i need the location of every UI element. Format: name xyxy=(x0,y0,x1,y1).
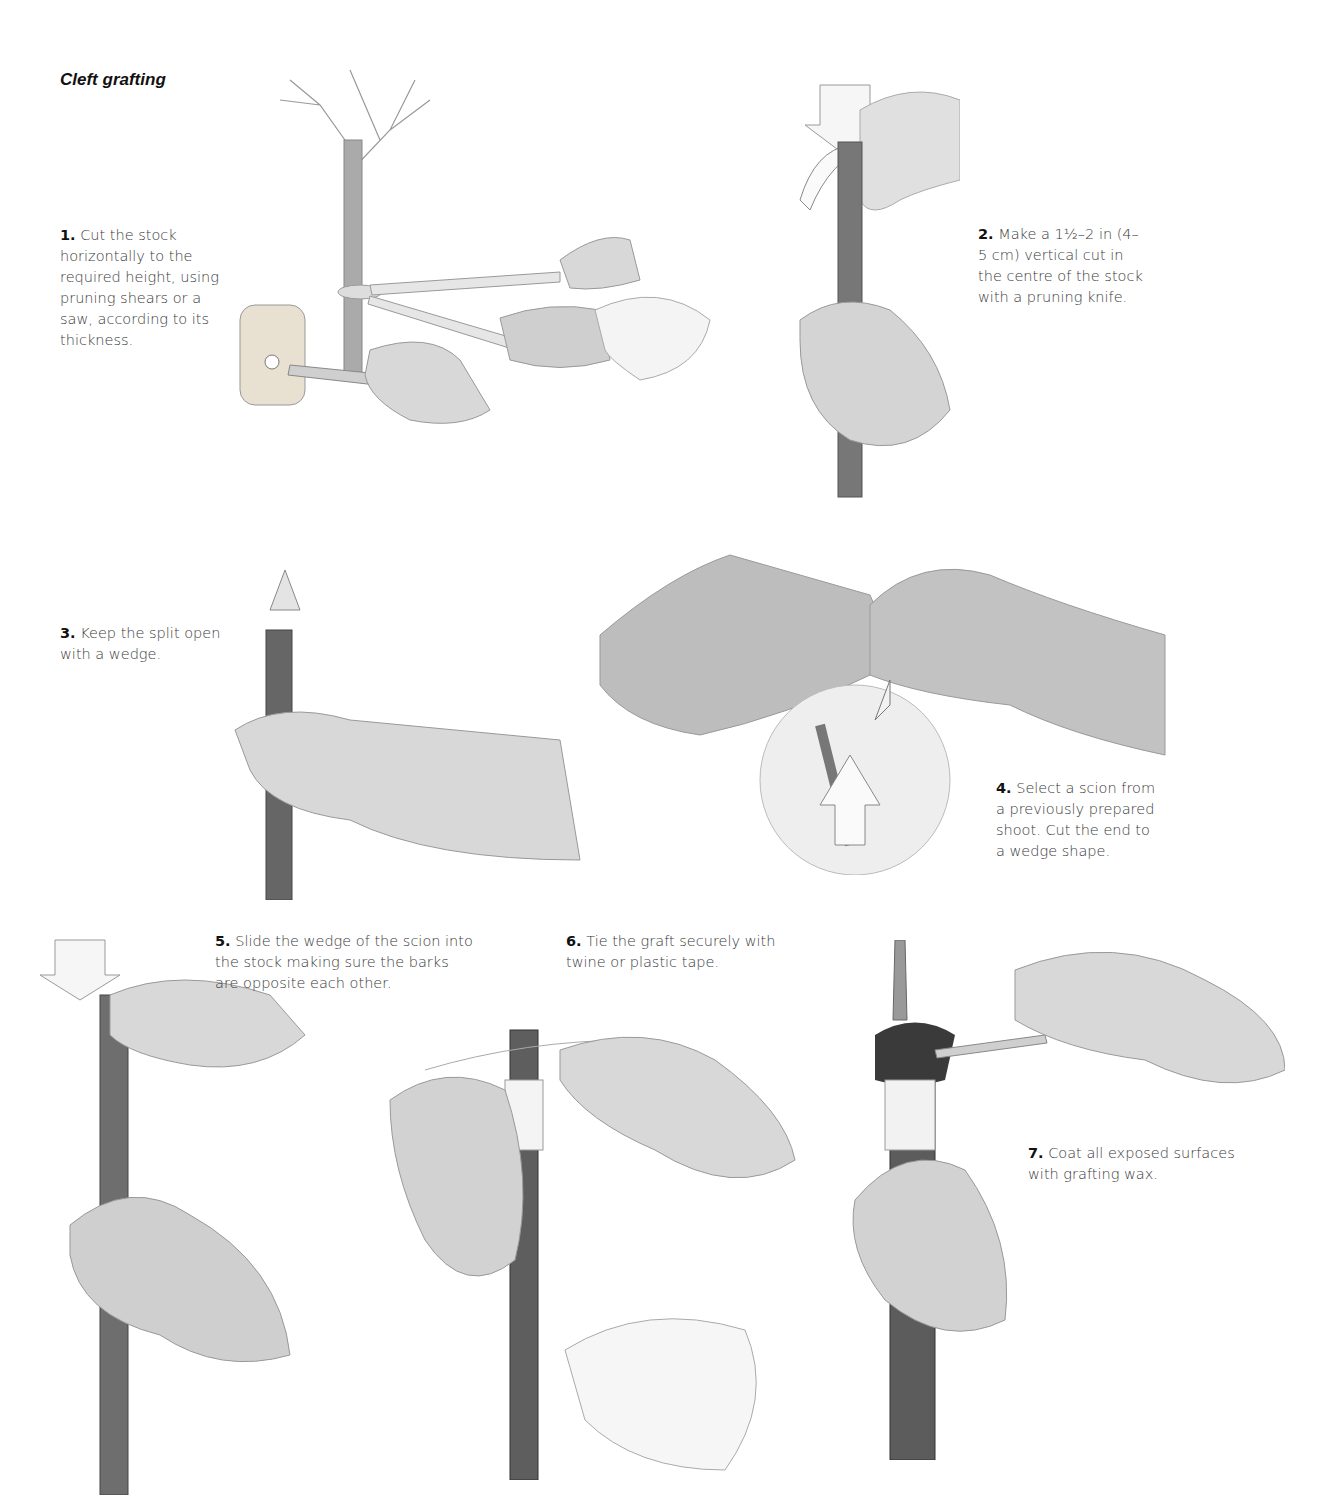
step-3-caption: 3. Keep the split open with a wedge. xyxy=(60,623,230,665)
step-text: Keep the split open with a wedge. xyxy=(60,625,220,662)
step-number: 3. xyxy=(60,625,76,641)
page-title: Cleft grafting xyxy=(60,70,166,90)
illustration-insert-scion xyxy=(40,935,310,1495)
step-2-caption: 2. Make a 1½–2 in (4–5 cm) vertical cut … xyxy=(978,224,1148,308)
step-text: Select a scion from a previously prepare… xyxy=(996,780,1155,859)
step-text: Coat all exposed surfaces with grafting … xyxy=(1028,1145,1235,1182)
step-1-caption: 1. Cut the stock horizontally to the req… xyxy=(60,225,230,351)
step-5-caption: 5. Slide the wedge of the scion into the… xyxy=(215,931,475,994)
step-text: Slide the wedge of the scion into the st… xyxy=(215,933,473,991)
illustration-tie-graft xyxy=(385,1000,815,1480)
step-text: Tie the graft securely with twine or pla… xyxy=(566,933,775,970)
illustration-knife-cut xyxy=(780,80,960,500)
illustration-mallet-wedge xyxy=(230,300,590,900)
step-text: Cut the stock horizontally to the requir… xyxy=(60,227,219,348)
step-text: Make a 1½–2 in (4–5 cm) vertical cut in … xyxy=(978,226,1143,305)
step-6-caption: 6. Tie the graft securely with twine or … xyxy=(566,931,816,973)
step-number: 4. xyxy=(996,780,1012,796)
step-4-caption: 4. Select a scion from a previously prep… xyxy=(996,778,1156,862)
step-number: 5. xyxy=(215,933,231,949)
step-number: 2. xyxy=(978,226,994,242)
illustration-grafting-wax xyxy=(845,940,1285,1460)
step-number: 7. xyxy=(1028,1145,1044,1161)
step-7-caption: 7. Coat all exposed surfaces with grafti… xyxy=(1028,1143,1268,1185)
step-number: 6. xyxy=(566,933,582,949)
step-number: 1. xyxy=(60,227,76,243)
